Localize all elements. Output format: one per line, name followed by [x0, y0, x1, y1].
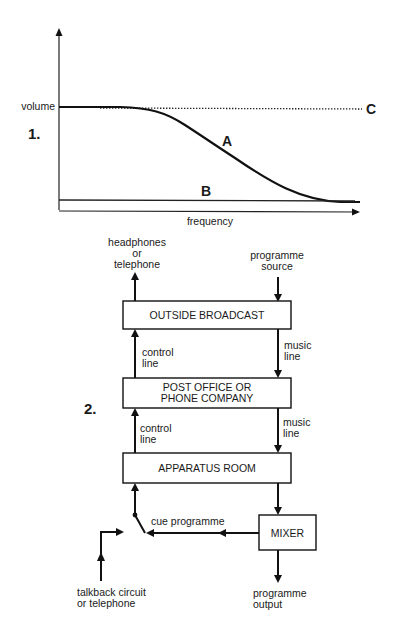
figure-canvas: volume frequency 1. C A B 2. headphones …: [0, 0, 394, 620]
talkback-line: [101, 532, 122, 581]
cue-programme-mid-arrow: [218, 529, 226, 537]
music-line-2-label-b: line: [283, 427, 300, 439]
curve-b: [59, 200, 355, 201]
y-axis-label: volume: [21, 100, 55, 112]
apparatus-room-label: APPARATUS ROOM: [158, 462, 256, 474]
talkback-up-arrowhead: [97, 552, 105, 561]
x-axis: [59, 211, 358, 212]
x-axis-label: frequency: [187, 215, 234, 227]
switch-blade: [135, 515, 145, 533]
figure-1-number: 1.: [28, 125, 41, 142]
figure-2-number: 2.: [84, 400, 97, 417]
figure-1-graph: volume frequency 1. C A B: [21, 30, 376, 227]
curve-b-label: B: [201, 183, 211, 199]
control-line-1-label-b: line: [142, 357, 159, 369]
curve-a-label: A: [222, 133, 232, 149]
programme-source-label-2: source: [261, 260, 293, 272]
cue-programme-label: cue programme: [151, 515, 225, 527]
mixer-label: MIXER: [271, 527, 305, 539]
music-line-1-label-b: line: [284, 350, 301, 362]
curve-c-label: C: [366, 101, 376, 117]
headphones-label-3: telephone: [114, 258, 160, 270]
control-line-2-label-b: line: [140, 433, 157, 445]
talkback-label-2: or telephone: [77, 597, 136, 609]
figure-2-signal-diagram: 2. headphones or telephone programme sou…: [77, 236, 316, 610]
programme-output-label-2: output: [253, 598, 282, 610]
outside-broadcast-label: OUTSIDE BROADCAST: [150, 309, 266, 321]
post-office-label-2: PHONE COMPANY: [161, 392, 254, 404]
